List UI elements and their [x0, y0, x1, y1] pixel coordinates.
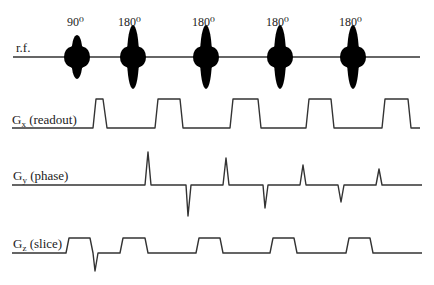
rf-pulse-icon	[267, 25, 293, 89]
flip-angle-label: 180⁰	[192, 15, 215, 29]
rf-pulse-icon	[64, 35, 90, 79]
gz-label: Gz (slice)	[13, 236, 62, 253]
pulse-sequence-diagram: r.f. 90⁰180⁰180⁰180⁰180⁰ Gx (readout) Gy…	[0, 0, 434, 285]
gz-slice-waveform	[12, 238, 422, 271]
flip-angle-label: 180⁰	[118, 15, 141, 29]
gy-label: Gy (phase)	[13, 168, 68, 185]
rf-row: r.f. 90⁰180⁰180⁰180⁰180⁰	[13, 15, 420, 89]
flip-angle-label: 90⁰	[67, 15, 84, 29]
flip-angle-label: 180⁰	[339, 15, 362, 29]
rf-pulse-icon	[193, 25, 219, 89]
gz-slice-row: Gz (slice)	[12, 236, 422, 271]
rf-flip-angle-labels: 90⁰180⁰180⁰180⁰180⁰	[67, 15, 362, 29]
gy-phase-row: Gy (phase)	[12, 152, 422, 216]
rf-label: r.f.	[16, 40, 30, 55]
flip-angle-label: 180⁰	[266, 15, 289, 29]
rf-pulse-icon	[120, 25, 146, 89]
rf-pulse-icon	[340, 25, 366, 89]
gx-readout-row: Gx (readout)	[12, 99, 420, 129]
gy-phase-waveform	[12, 152, 422, 216]
gx-label: Gx (readout)	[12, 112, 77, 129]
